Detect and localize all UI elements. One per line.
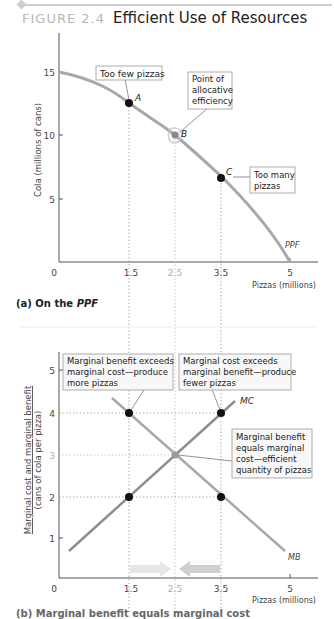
mcmb-x-label-2-5: 2.5 xyxy=(168,584,182,594)
mcmb-x-axis-title: Pizzas (millions) xyxy=(252,596,316,605)
callout-line-a xyxy=(125,79,129,100)
box-more-line2: marginal cost—produce xyxy=(67,367,168,377)
ppf-y-axis-title: Cola (millions of cans) xyxy=(33,103,43,197)
ppf-x-label-1-5: 1.5 xyxy=(124,268,138,278)
box-fewer-line2: marginal benefit—produce xyxy=(183,367,296,377)
ppf-x-label-2-5: 2.5 xyxy=(168,268,182,278)
label-a: A xyxy=(134,93,141,103)
ppf-y-label-5: 5 xyxy=(49,195,55,205)
box-more-line3: more pizzas xyxy=(67,378,119,388)
arrow-right-increase xyxy=(130,561,171,577)
label-b: B xyxy=(181,129,187,139)
box-more-line1: Marginal benefit exceeds xyxy=(67,356,174,366)
box-eq-line2: equals marginal xyxy=(236,443,304,453)
mcmb-y-label-5: 5 xyxy=(49,366,55,376)
box-fewer-line1: Marginal cost exceeds xyxy=(183,356,278,366)
ppf-y-label-10: 10 xyxy=(44,131,56,141)
mcmb-x-label-3-5: 3.5 xyxy=(214,584,228,594)
label-ppf: PPF xyxy=(285,241,300,250)
point-c xyxy=(217,174,225,182)
mcmb-y-label-3: 3 xyxy=(49,451,55,461)
box-too-many-line1: Too many xyxy=(253,170,295,180)
point-mb-3-5 xyxy=(217,493,225,501)
point-efficient xyxy=(172,452,179,459)
box-too-many-line2: pizzas xyxy=(254,181,281,191)
caption-a-prefix: (a) On the xyxy=(16,298,77,309)
point-a xyxy=(125,99,133,107)
callout-line-more xyxy=(131,390,144,410)
ppf-x-label-5: 5 xyxy=(287,268,293,278)
box-efficiency-line3: efficiency xyxy=(192,96,233,106)
point-b xyxy=(172,132,179,139)
box-eq-line3: cost—efficient xyxy=(236,454,297,464)
ppf-x-axis-title: Pizzas (millions) xyxy=(252,281,316,290)
ppf-x-label-3-5: 3.5 xyxy=(214,268,228,278)
caption-a: (a) On the PPF xyxy=(16,298,98,309)
mcmb-y-axis-title-2: (cans of cola per pizza) xyxy=(33,411,43,510)
point-mc-3-5 xyxy=(217,409,225,417)
mcmb-x-label-1-5: 1.5 xyxy=(124,584,138,594)
mcmb-y-label-4: 4 xyxy=(49,409,55,419)
mcmb-x-label-0: 0 xyxy=(51,584,57,594)
label-mc: MC xyxy=(240,396,255,406)
mcmb-x-label-5: 5 xyxy=(287,584,293,594)
mc-mb-chart: Marginal benefit exceeds marginal cost—p… xyxy=(23,352,318,605)
callout-line-equal xyxy=(178,455,232,461)
ppf-x-label-0: 0 xyxy=(51,268,57,278)
mcmb-y-label-1: 1 xyxy=(49,534,55,544)
caption-a-em: PPF xyxy=(77,298,99,309)
point-mc-1-5 xyxy=(125,493,133,501)
ppf-y-label-15: 15 xyxy=(44,68,55,78)
box-eq-line4: quantity of pizzas xyxy=(236,465,312,475)
ppf-chart: Too few pizzas Point of allocative effic… xyxy=(33,33,318,613)
box-eq-line1: Marginal benefit xyxy=(236,432,306,442)
mc-curve xyxy=(69,401,235,551)
mcmb-y-axis-title-1: Marginal cost and marginal benefit xyxy=(23,385,33,534)
point-mb-1-5 xyxy=(125,409,133,417)
label-c: C xyxy=(226,167,233,177)
box-too-few-text: Too few pizzas xyxy=(99,69,165,79)
mcmb-y-label-2: 2 xyxy=(49,493,55,503)
box-efficiency-line1: Point of xyxy=(192,74,225,84)
arrow-left-decrease xyxy=(179,561,220,577)
label-mb: MB xyxy=(288,553,300,562)
box-efficiency-line2: allocative xyxy=(192,85,233,95)
box-fewer-line3: fewer pizzas xyxy=(183,378,236,388)
caption-b: (b) Marginal benefit equals marginal cos… xyxy=(16,608,250,619)
